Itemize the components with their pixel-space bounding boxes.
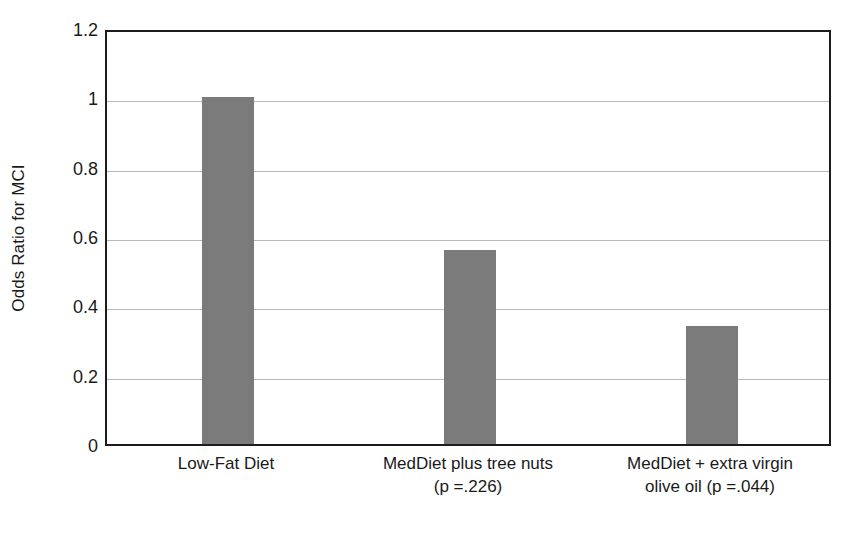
y-tick-label: 1.2 bbox=[46, 21, 98, 39]
bar bbox=[686, 326, 738, 444]
x-axis-category-labels: Low-Fat DietMedDiet plus tree nuts (p =.… bbox=[105, 452, 831, 512]
x-category-label: MedDiet plus tree nuts (p =.226) bbox=[327, 452, 609, 498]
y-tick-label: 0.4 bbox=[46, 298, 98, 316]
y-tick-label: 1 bbox=[46, 90, 98, 108]
x-category-label: MedDiet + extra virgin olive oil (p =.04… bbox=[569, 452, 851, 498]
plot-area bbox=[105, 30, 831, 446]
y-tick-label: 0.6 bbox=[46, 229, 98, 247]
x-category-label: Low-Fat Diet bbox=[85, 452, 367, 475]
y-tick-label: 0.8 bbox=[46, 160, 98, 178]
bar-chart: Odds Ratio for MCI 00.20.40.60.811.2 Low… bbox=[0, 0, 852, 538]
bar bbox=[202, 97, 254, 444]
bar bbox=[444, 250, 496, 444]
y-tick-label: 0.2 bbox=[46, 368, 98, 386]
y-axis-title: Odds Ratio for MCI bbox=[4, 30, 34, 446]
